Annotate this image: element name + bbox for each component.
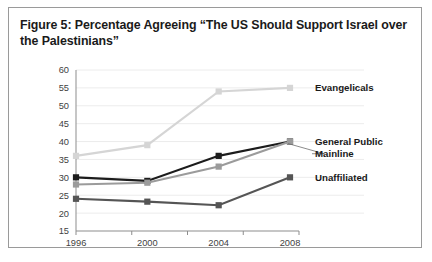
x-axis-tick-label: 1996: [66, 238, 87, 247]
figure-caption: Figure 5: Percentage Agreeing “The US Sh…: [20, 17, 412, 50]
series-marker: [287, 85, 293, 91]
chart-svg: 15202530354045505560 1996200020042008 Ev…: [9, 53, 421, 247]
series-label-unaffiliated: Unaffiliated: [315, 172, 368, 183]
series-marker: [144, 180, 150, 186]
y-axis-tick-labels: 15202530354045505560: [59, 65, 69, 236]
y-axis-tick-label: 40: [59, 137, 69, 147]
y-axis-tick-label: 30: [59, 173, 69, 183]
series-line: [76, 88, 290, 156]
series-marker: [216, 202, 222, 208]
y-axis-tick-label: 50: [59, 101, 69, 111]
y-axis-tick-label: 20: [59, 209, 69, 219]
series-marker: [73, 196, 79, 202]
y-axis-tick-label: 35: [59, 155, 69, 165]
x-axis-tick-label: 2004: [208, 238, 229, 247]
chart-axes: [76, 70, 299, 235]
y-axis-tick-label: 45: [59, 119, 69, 129]
series-marker: [73, 181, 79, 187]
data-series: [73, 85, 293, 209]
series-marker: [216, 164, 222, 170]
series-label-general-public: General Public: [315, 136, 383, 147]
series-marker: [216, 153, 222, 159]
series-label-mainline: Mainline: [315, 148, 354, 159]
series-labels: EvangelicalsGeneral PublicMainlineUnaffi…: [315, 82, 383, 182]
series-label-evangelicals: Evangelicals: [315, 82, 374, 93]
x-axis-tick-labels: 1996200020042008: [66, 238, 301, 247]
series-marker: [287, 174, 293, 180]
y-axis-tick-label: 55: [59, 83, 69, 93]
series-marker: [73, 174, 79, 180]
series-marker: [144, 199, 150, 205]
x-axis-tick-label: 2000: [137, 238, 158, 247]
series-line: [76, 177, 290, 205]
series-marker: [144, 142, 150, 148]
y-axis-tick-label: 25: [59, 191, 69, 201]
x-axis-tick-label: 2008: [280, 238, 301, 247]
line-chart: 15202530354045505560 1996200020042008 Ev…: [9, 53, 421, 247]
figure-frame: Figure 5: Percentage Agreeing “The US Sh…: [8, 7, 422, 248]
y-axis-tick-label: 15: [59, 226, 69, 236]
series-marker: [73, 153, 79, 159]
y-axis-tick-label: 60: [59, 65, 69, 75]
series-marker: [216, 88, 222, 94]
